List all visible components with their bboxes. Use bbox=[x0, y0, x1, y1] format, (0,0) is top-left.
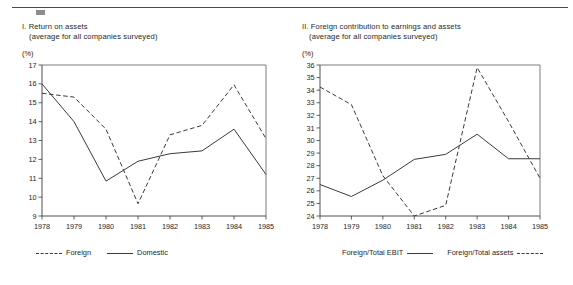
page-root: I. Return on assets (average for all com… bbox=[0, 0, 573, 285]
x-axis-tick-label: 1981 bbox=[406, 222, 422, 231]
legend-label: Foreign bbox=[66, 248, 91, 258]
x-axis-tick-label: 1982 bbox=[162, 222, 178, 231]
legend-swatch-dashed-icon bbox=[517, 253, 543, 254]
y-axis-tick-label: 30 bbox=[306, 136, 314, 145]
y-axis-tick-label: 17 bbox=[28, 61, 36, 70]
y-axis-tick-label: 31 bbox=[306, 124, 314, 133]
chart-legend-foreign-contribution: Foreign/Total EBIT Foreign/Total assets bbox=[342, 248, 543, 258]
x-axis-tick-label: 1983 bbox=[469, 222, 485, 231]
legend-swatch-solid-icon bbox=[407, 253, 433, 254]
legend-label: Foreign/Total EBIT bbox=[342, 248, 403, 258]
legend-label: Domestic bbox=[137, 248, 168, 258]
y-axis-tick-label: 28 bbox=[306, 161, 314, 170]
chart-panel-foreign-contribution: II. Foreign contribution to earnings and… bbox=[280, 0, 566, 285]
y-axis-tick-label: 25 bbox=[306, 199, 314, 208]
y-axis-tick-label: 29 bbox=[306, 149, 314, 158]
y-axis-tick-label: 10 bbox=[28, 193, 36, 202]
legend-swatch-dashed-icon bbox=[36, 253, 62, 254]
x-axis-tick-label: 1980 bbox=[98, 222, 114, 231]
chart-series-line bbox=[320, 68, 540, 216]
y-axis-tick-label: 32 bbox=[306, 111, 314, 120]
chart-panel-return-on-assets: I. Return on assets (average for all com… bbox=[0, 0, 286, 285]
chart-series-line bbox=[320, 134, 540, 196]
y-axis-tick-label: 16 bbox=[28, 79, 36, 88]
chart-legend-return-on-assets: Foreign Domestic bbox=[36, 248, 168, 258]
y-axis-tick-label: 36 bbox=[306, 61, 314, 70]
x-axis-tick-label: 1984 bbox=[226, 222, 242, 231]
legend-item-foreign: Foreign bbox=[36, 248, 91, 258]
chart-series-line bbox=[42, 85, 266, 204]
y-axis-tick-label: 35 bbox=[306, 73, 314, 82]
x-axis-tick-label: 1978 bbox=[312, 222, 328, 231]
y-axis-tick-label: 27 bbox=[306, 174, 314, 183]
y-axis-tick-label: 14 bbox=[28, 117, 36, 126]
legend-swatch-solid-icon bbox=[107, 253, 133, 254]
legend-item-foreign-total-ebit: Foreign/Total EBIT bbox=[342, 248, 433, 258]
y-axis-tick-label: 33 bbox=[306, 98, 314, 107]
legend-item-foreign-total-assets: Foreign/Total assets bbox=[447, 248, 543, 258]
x-axis-tick-label: 1985 bbox=[258, 222, 274, 231]
x-axis-tick-label: 1981 bbox=[130, 222, 146, 231]
x-axis-tick-label: 1978 bbox=[34, 222, 50, 231]
y-axis-tick-label: 13 bbox=[28, 136, 36, 145]
chart-series-line bbox=[42, 84, 266, 181]
chart-plot-area-return-on-assets: 9101112131415161719781979198019811982198… bbox=[0, 0, 286, 285]
chart-plot-area-foreign-contribution: 2425262728293031323334353619781979198019… bbox=[280, 0, 566, 285]
x-axis-tick-label: 1985 bbox=[532, 222, 548, 231]
x-axis-tick-label: 1979 bbox=[343, 222, 359, 231]
y-axis-tick-label: 24 bbox=[306, 212, 314, 221]
legend-label: Foreign/Total assets bbox=[447, 248, 513, 258]
x-axis-tick-label: 1979 bbox=[66, 222, 82, 231]
x-axis-tick-label: 1983 bbox=[194, 222, 210, 231]
y-axis-tick-label: 26 bbox=[306, 186, 314, 195]
y-axis-tick-label: 15 bbox=[28, 98, 36, 107]
x-axis-tick-label: 1984 bbox=[500, 222, 516, 231]
y-axis-tick-label: 11 bbox=[29, 174, 37, 183]
y-axis-tick-label: 34 bbox=[306, 86, 314, 95]
y-axis-tick-label: 12 bbox=[28, 155, 36, 164]
legend-item-domestic: Domestic bbox=[107, 248, 168, 258]
y-axis-tick-label: 9 bbox=[32, 212, 36, 221]
x-axis-tick-label: 1982 bbox=[438, 222, 454, 231]
x-axis-tick-label: 1980 bbox=[375, 222, 391, 231]
